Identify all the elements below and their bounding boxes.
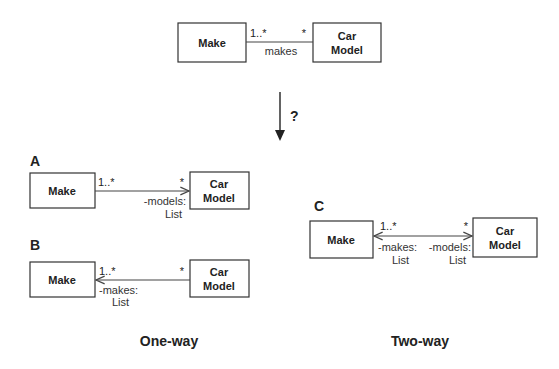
caption-one-way: One-way: [140, 333, 199, 349]
option-b-right-multiplicity: *: [180, 265, 185, 277]
option-b-left-role-line1: -makes:: [99, 284, 138, 296]
option-a-right-multiplicity: *: [180, 176, 185, 188]
option-c: C Make Car Model 1..* * -makes: List -mo…: [310, 198, 537, 266]
option-c-carmodel-class-name-line1: Car: [496, 225, 515, 237]
option-a-left-multiplicity: 1..*: [98, 176, 115, 188]
option-c-carmodel-class-name-line2: Model: [489, 239, 521, 251]
option-b-left-multiplicity: 1..*: [99, 265, 116, 277]
transition-arrow: ?: [275, 92, 299, 141]
uml-association-diagram: Make Car Model 1..* * makes ? A Make Car…: [0, 0, 559, 369]
top-association: Make Car Model 1..* * makes: [178, 23, 381, 62]
option-c-carmodel-class-box: [473, 218, 537, 257]
top-right-multiplicity: *: [302, 27, 307, 39]
option-b-make-class-name: Make: [48, 274, 76, 286]
option-b-carmodel-class-name-line2: Model: [203, 280, 235, 292]
option-c-right-multiplicity: *: [464, 220, 469, 232]
top-carmodel-class-name-line2: Model: [331, 44, 363, 56]
top-left-multiplicity: 1..*: [250, 27, 267, 39]
top-carmodel-class-box: [313, 23, 381, 62]
option-c-make-class-name: Make: [327, 234, 355, 246]
option-c-label: C: [314, 198, 324, 214]
option-a-right-role-line1: -models:: [144, 195, 186, 207]
option-c-right-role-line1: -models:: [429, 241, 471, 253]
option-b: B Make Car Model 1..* * -makes: List: [30, 237, 249, 308]
option-a-label: A: [30, 153, 40, 169]
top-carmodel-class-name-line1: Car: [338, 30, 357, 42]
option-a-carmodel-class-name-line1: Car: [210, 178, 229, 190]
top-association-label: makes: [265, 45, 298, 57]
option-a: A Make Car Model 1..* * -models: List: [30, 153, 249, 220]
option-c-left-role-line1: -makes:: [378, 241, 417, 253]
top-make-class-name: Make: [198, 37, 226, 49]
option-a-right-role-line2: List: [165, 208, 182, 220]
option-a-make-class-name: Make: [48, 185, 76, 197]
option-c-right-role-line2: List: [449, 254, 466, 266]
option-c-left-multiplicity: 1..*: [380, 220, 397, 232]
option-b-label: B: [30, 237, 40, 253]
option-b-carmodel-class-name-line1: Car: [210, 266, 229, 278]
option-a-carmodel-class-name-line2: Model: [203, 192, 235, 204]
option-c-left-role-line2: List: [392, 254, 409, 266]
down-arrow-head-icon: [275, 130, 285, 141]
caption-two-way: Two-way: [391, 333, 449, 349]
question-mark: ?: [290, 108, 299, 124]
option-b-left-role-line2: List: [112, 296, 129, 308]
